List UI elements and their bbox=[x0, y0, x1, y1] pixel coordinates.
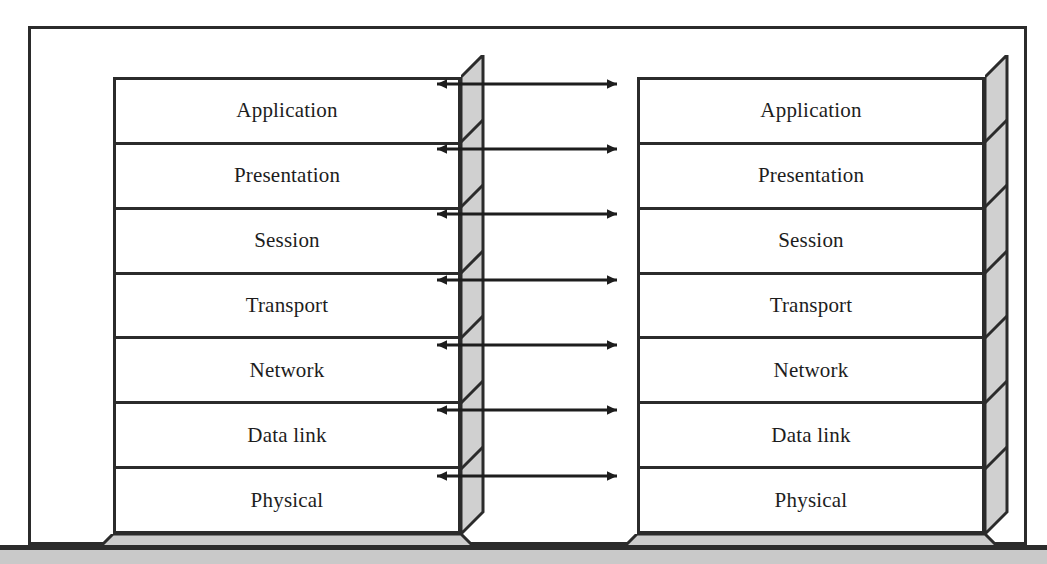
diagram-canvas: Application Presentation Session Transpo… bbox=[0, 0, 1047, 564]
layer-box-presentation[interactable]: Presentation bbox=[640, 145, 982, 210]
layer-box-transport[interactable]: Transport bbox=[116, 275, 458, 340]
layer-box-presentation[interactable]: Presentation bbox=[116, 145, 458, 210]
layer-box-network[interactable]: Network bbox=[116, 339, 458, 404]
layer-box-data-link[interactable]: Data link bbox=[640, 404, 982, 469]
layer-box-session[interactable]: Session bbox=[640, 210, 982, 275]
left-stack-front-face: Application Presentation Session Transpo… bbox=[113, 77, 461, 534]
layer-box-physical[interactable]: Physical bbox=[640, 469, 982, 531]
layer-label-application: Application bbox=[760, 100, 861, 121]
layer-label-session: Session bbox=[254, 230, 320, 251]
layer-box-physical[interactable]: Physical bbox=[116, 469, 458, 531]
figure-frame: Application Presentation Session Transpo… bbox=[28, 26, 1027, 545]
left-stack-side-face-3d bbox=[461, 55, 483, 534]
layer-label-network: Network bbox=[774, 360, 849, 381]
layer-box-network[interactable]: Network bbox=[640, 339, 982, 404]
layer-label-session: Session bbox=[778, 230, 844, 251]
layer-label-network: Network bbox=[250, 360, 325, 381]
layer-box-session[interactable]: Session bbox=[116, 210, 458, 275]
layer-label-transport: Transport bbox=[770, 295, 853, 316]
layer-label-application: Application bbox=[236, 100, 337, 121]
layer-label-physical: Physical bbox=[775, 490, 848, 511]
layer-box-transport[interactable]: Transport bbox=[640, 275, 982, 340]
layer-label-presentation: Presentation bbox=[234, 165, 340, 186]
layer-label-data-link: Data link bbox=[771, 425, 850, 446]
layer-label-transport: Transport bbox=[246, 295, 329, 316]
right-protocol-stack: Application Presentation Session Transpo… bbox=[637, 77, 985, 534]
layer-box-application[interactable]: Application bbox=[640, 80, 982, 145]
left-protocol-stack: Application Presentation Session Transpo… bbox=[113, 77, 461, 534]
right-stack-side-face-3d bbox=[985, 55, 1007, 534]
layer-label-presentation: Presentation bbox=[758, 165, 864, 186]
layer-box-data-link[interactable]: Data link bbox=[116, 404, 458, 469]
layer-label-physical: Physical bbox=[251, 490, 324, 511]
page-edge-gray-band bbox=[0, 550, 1047, 564]
layer-box-application[interactable]: Application bbox=[116, 80, 458, 145]
layer-label-data-link: Data link bbox=[247, 425, 326, 446]
right-stack-front-face: Application Presentation Session Transpo… bbox=[637, 77, 985, 534]
